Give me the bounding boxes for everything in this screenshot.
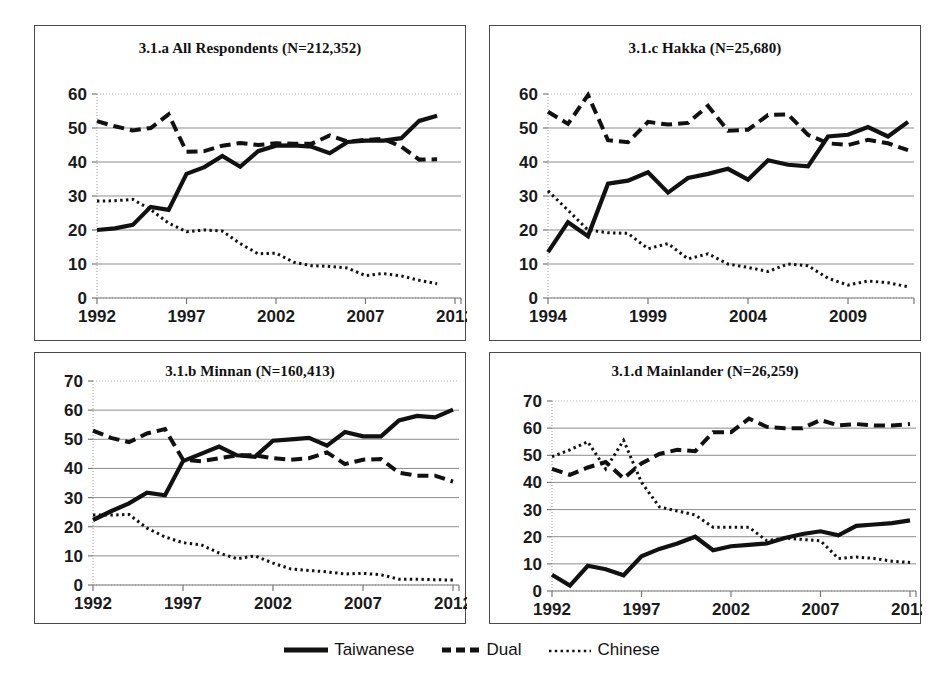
x-tick-label-2009: 2009 (829, 307, 867, 326)
series-line-chinese (93, 514, 453, 580)
series-line-taiwanese (552, 520, 910, 585)
y-tick-label-0: 0 (78, 289, 87, 308)
chart-panel-minnan: 3.1.b Minnan (N=160,413) 010203040506070… (34, 352, 466, 624)
x-tick-label-2012: 2012 (891, 600, 922, 619)
y-tick-label-30: 30 (519, 187, 538, 206)
chart-svg-panel-b: 01020304050607019921997200220072012 (35, 353, 467, 625)
y-tick-label-30: 30 (68, 187, 87, 206)
y-tick-label-0: 0 (529, 289, 538, 308)
series-line-dual (93, 429, 453, 481)
x-tick-label-1999: 1999 (629, 307, 667, 326)
y-tick-label-30: 30 (523, 501, 542, 520)
legend-swatch-dotted-icon (547, 643, 593, 657)
y-tick-label-50: 50 (523, 446, 542, 465)
legend-label-taiwanese: Taiwanese (334, 640, 414, 660)
legend-label-dual: Dual (486, 640, 521, 660)
legend-label-chinese: Chinese (597, 640, 659, 660)
y-tick-label-50: 50 (64, 430, 83, 449)
x-tick-label-1994: 1994 (529, 307, 567, 326)
y-tick-label-20: 20 (64, 518, 83, 537)
x-tick-label-1992: 1992 (533, 600, 571, 619)
x-tick-label-1992: 1992 (74, 594, 112, 613)
x-tick-label-2007: 2007 (344, 594, 382, 613)
x-tick-label-1997: 1997 (164, 594, 202, 613)
legend-swatch-dashed-icon (440, 643, 482, 657)
legend-entry-dual: Dual (440, 640, 521, 660)
y-tick-label-20: 20 (523, 528, 542, 547)
y-tick-label-0: 0 (533, 582, 542, 601)
y-tick-label-40: 40 (64, 459, 83, 478)
y-tick-label-20: 20 (519, 221, 538, 240)
y-tick-label-60: 60 (519, 85, 538, 104)
series-line-taiwanese (97, 116, 437, 230)
y-tick-label-50: 50 (68, 119, 87, 138)
y-tick-label-20: 20 (68, 221, 87, 240)
x-tick-label-2012: 2012 (436, 307, 467, 326)
chart-legend: Taiwanese Dual Chinese (0, 640, 942, 660)
chart-panel-all-respondents: 3.1.a All Respondents (N=212,352) 010203… (34, 25, 466, 341)
legend-entry-taiwanese: Taiwanese (282, 640, 414, 660)
x-tick-label-1997: 1997 (168, 307, 206, 326)
y-tick-label-60: 60 (523, 419, 542, 438)
y-tick-label-30: 30 (64, 489, 83, 508)
x-tick-label-2004: 2004 (729, 307, 767, 326)
chart-svg-panel-d: 01020304050607019921997200220072012 (490, 353, 922, 625)
chart-panel-mainlander: 3.1.d Mainlander (N=26,259) 010203040506… (489, 352, 921, 624)
x-tick-label-2002: 2002 (257, 307, 295, 326)
chart-svg-panel-a: 010203040506019921997200220072012 (35, 26, 467, 342)
x-tick-label-2002: 2002 (712, 600, 750, 619)
legend-swatch-solid-icon (282, 643, 330, 657)
x-tick-label-1997: 1997 (623, 600, 661, 619)
y-tick-label-0: 0 (74, 576, 83, 595)
y-tick-label-40: 40 (519, 153, 538, 172)
chart-panel-hakka: 3.1.c Hakka (N=25,680) 01020304050601994… (489, 25, 921, 341)
x-tick-label-2012: 2012 (434, 594, 467, 613)
y-tick-label-50: 50 (519, 119, 538, 138)
chart-svg-panel-c: 01020304050601994199920042009 (490, 26, 922, 342)
y-tick-label-70: 70 (523, 392, 542, 411)
series-line-taiwanese (93, 410, 453, 520)
series-line-dual (97, 114, 437, 159)
x-tick-label-1992: 1992 (78, 307, 116, 326)
figure-panel-grid: 3.1.a All Respondents (N=212,352) 010203… (0, 0, 942, 685)
legend-entry-chinese: Chinese (547, 640, 659, 660)
y-tick-label-70: 70 (64, 372, 83, 391)
series-line-dual (548, 95, 908, 150)
x-tick-label-2007: 2007 (347, 307, 385, 326)
y-tick-label-10: 10 (523, 555, 542, 574)
y-tick-label-40: 40 (523, 473, 542, 492)
y-tick-label-40: 40 (68, 153, 87, 172)
y-tick-label-10: 10 (519, 255, 538, 274)
y-tick-label-10: 10 (64, 547, 83, 566)
y-tick-label-60: 60 (68, 85, 87, 104)
x-tick-label-2007: 2007 (802, 600, 840, 619)
y-tick-label-60: 60 (64, 401, 83, 420)
y-tick-label-10: 10 (68, 255, 87, 274)
x-tick-label-2002: 2002 (254, 594, 292, 613)
